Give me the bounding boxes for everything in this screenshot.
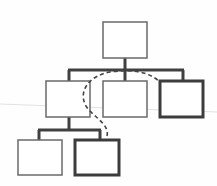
connectors-root	[68, 58, 184, 81]
node-child-right-highlighted[interactable]	[160, 81, 203, 117]
tree-diagram	[0, 0, 217, 186]
node-root[interactable]	[103, 22, 147, 58]
tree-diagram-canvas	[0, 0, 217, 186]
node-grandchild-right-highlighted[interactable]	[75, 140, 119, 175]
connectors-child-left	[38, 117, 101, 140]
node-child-middle[interactable]	[103, 81, 147, 117]
node-grandchild-left[interactable]	[18, 140, 62, 175]
